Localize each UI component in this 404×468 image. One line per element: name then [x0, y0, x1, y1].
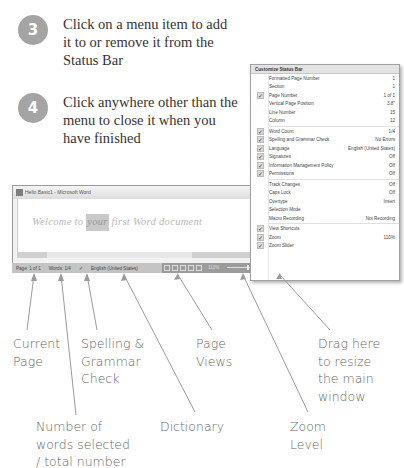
callout-dictionary: Dictionary — [160, 418, 224, 436]
callout-current-page: CurrentPage — [13, 335, 60, 370]
callout-spelling: Spelling &GrammarCheck — [81, 335, 144, 388]
callout-word-count: Number ofwords selected/ total number — [36, 418, 130, 468]
callout-zoom-level: ZoomLevel — [290, 418, 326, 453]
callout-page-views: PageViews — [196, 335, 232, 370]
callout-resize: Drag hereto resizethe mainwindow — [318, 335, 380, 405]
